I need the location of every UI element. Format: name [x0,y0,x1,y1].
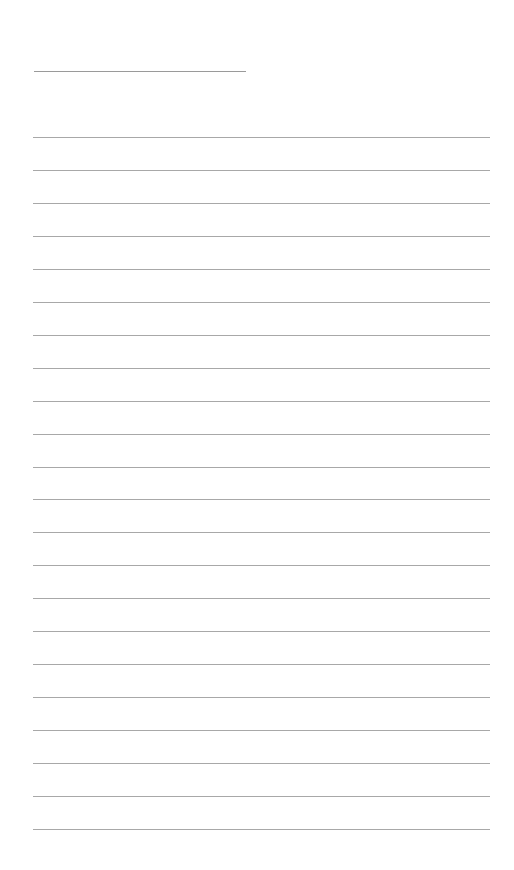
ruled-line [33,664,490,665]
ruled-line [33,368,490,369]
lined-paper-page [0,0,514,870]
ruled-line [33,236,490,237]
ruled-line [33,730,490,731]
ruled-line [33,170,490,171]
ruled-line [33,203,490,204]
ruled-line [33,697,490,698]
ruled-line [33,467,490,468]
ruled-line [33,532,490,533]
ruled-line [33,269,490,270]
ruled-line [33,335,490,336]
header-name-line [34,71,246,72]
ruled-line [33,401,490,402]
ruled-line [33,763,490,764]
ruled-line [33,137,490,138]
ruled-line [33,499,490,500]
ruled-line [33,796,490,797]
ruled-line [33,434,490,435]
ruled-line [33,829,490,830]
ruled-line [33,598,490,599]
ruled-line [33,302,490,303]
ruled-line [33,565,490,566]
ruled-line [33,631,490,632]
